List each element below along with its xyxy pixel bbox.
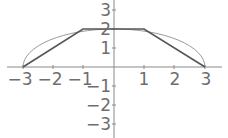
- x-label-neg3: −3: [7, 69, 32, 89]
- y-label-neg3: −3: [86, 114, 111, 134]
- y-label-neg2: −2: [86, 95, 111, 115]
- chart-svg: −3 −2 −1 1 2 3 3 2 1 −1 −2 −3: [0, 0, 228, 138]
- x-label-2: 2: [170, 69, 181, 89]
- y-label-2: 2: [100, 19, 111, 39]
- x-label-neg2: −2: [37, 69, 62, 89]
- y-label-1: 1: [100, 38, 111, 58]
- x-label-1: 1: [139, 69, 150, 89]
- y-label-3: 3: [100, 0, 111, 20]
- x-label-3: 3: [201, 69, 212, 89]
- plot-area: −3 −2 −1 1 2 3 3 2 1 −1 −2 −3: [0, 0, 228, 138]
- y-label-neg1: −1: [86, 76, 111, 96]
